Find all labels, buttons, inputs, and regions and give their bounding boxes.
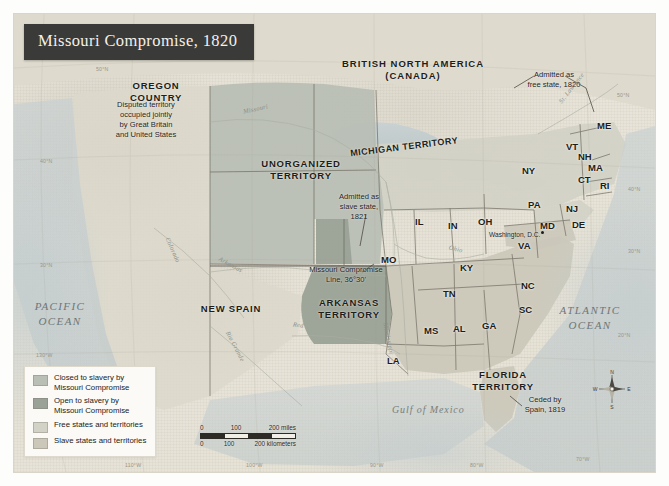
scale-bar-segment-4 <box>272 434 296 438</box>
legend-swatch-slave-states <box>33 438 48 449</box>
scale-miles-tick-100: 100 <box>231 424 242 431</box>
compass-north-label: N <box>610 369 614 375</box>
scale-km-tick-100: 100 <box>224 440 235 447</box>
scale-bar-segment-2 <box>225 434 249 438</box>
scale-km-tick-0: 0 <box>200 440 204 447</box>
compass-south-label: S <box>610 404 614 410</box>
legend-label-closed-to-slavery: Closed to slavery by Missouri Compromise <box>54 373 129 393</box>
scale-bar: 0 100 200 miles 0 100 200 kilometers <box>200 424 296 447</box>
compass-east-label: E <box>627 386 631 392</box>
scale-bar-km-ticks: 0 100 200 kilometers <box>200 440 296 447</box>
legend-item-closed-to-slavery: Closed to slavery by Missouri Compromise <box>33 373 146 393</box>
map-screenshot: Missouri Compromise, 1820 OREGON COUNTRY… <box>0 0 669 486</box>
scale-bar-segment-3 <box>248 434 272 438</box>
legend-swatch-open-to-slavery <box>33 398 48 409</box>
map-legend: Closed to slavery by Missouri Compromise… <box>24 366 156 457</box>
scale-km-tick-200: 200 kilometers <box>254 440 296 447</box>
map-title: Missouri Compromise, 1820 <box>24 24 254 60</box>
legend-label-slave-states: Slave states and territories <box>54 436 146 446</box>
legend-swatch-free-states <box>33 422 48 433</box>
scale-bar-graphic <box>200 433 296 439</box>
legend-item-open-to-slavery: Open to slavery by Missouri Compromise <box>33 396 146 416</box>
legend-label-free-states: Free states and territories <box>54 420 143 430</box>
compass-rose: N S W E <box>592 368 632 410</box>
legend-label-open-to-slavery: Open to slavery by Missouri Compromise <box>54 396 129 416</box>
scale-miles-tick-200: 200 miles <box>269 424 296 431</box>
legend-swatch-closed-to-slavery <box>33 375 48 386</box>
capital-dot-icon <box>541 231 544 234</box>
scale-bar-miles-ticks: 0 100 200 miles <box>200 424 296 431</box>
compass-west-label: W <box>593 386 598 392</box>
scale-bar-segment-1 <box>201 434 225 438</box>
scale-miles-tick-0: 0 <box>200 424 204 431</box>
legend-item-slave-states: Slave states and territories <box>33 436 146 449</box>
legend-item-free-states: Free states and territories <box>33 420 146 433</box>
